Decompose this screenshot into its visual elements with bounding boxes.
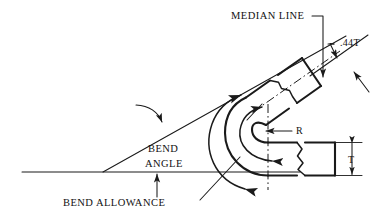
radius-label: R xyxy=(296,125,303,136)
median-line-label: MEDIAN LINE xyxy=(231,10,304,21)
setback-lower-arrow xyxy=(354,72,369,92)
bend-angle-pointer xyxy=(136,105,162,122)
median-tick xyxy=(247,104,262,120)
bend-angle-label-line2: ANGLE xyxy=(145,158,183,169)
bend-allowance-arc xyxy=(240,107,272,161)
bend-diagram-root: MEDIAN LINE .44T R T BEND ANGLE xyxy=(0,0,378,221)
setback-factor-label: .44T xyxy=(340,37,360,48)
bend-outer-curve xyxy=(225,98,268,176)
bend-allowance-label: BEND ALLOWANCE xyxy=(63,197,165,208)
bend-allowance-leader-diagonal xyxy=(200,157,240,200)
bend-inner-curve xyxy=(252,123,268,143)
bend-angle-label-line1: BEND xyxy=(148,143,178,154)
bend-diagram-canvas: MEDIAN LINE .44T R T BEND ANGLE xyxy=(0,0,378,221)
thickness-label: T xyxy=(348,154,354,165)
lower-flange-outline xyxy=(268,143,335,176)
upper-flange-outline xyxy=(246,58,321,125)
